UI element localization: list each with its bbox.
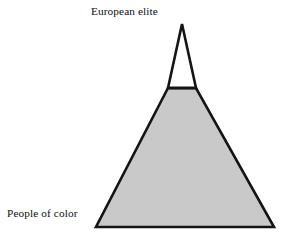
- people-of-color-segment: [96, 88, 274, 227]
- european-elite-label: European elite: [91, 5, 158, 18]
- pyramid-diagram: European elite People of color: [0, 0, 282, 240]
- pyramid-graphic: [0, 0, 282, 240]
- people-of-color-label: People of color: [7, 207, 78, 220]
- european-elite-segment: [168, 24, 196, 88]
